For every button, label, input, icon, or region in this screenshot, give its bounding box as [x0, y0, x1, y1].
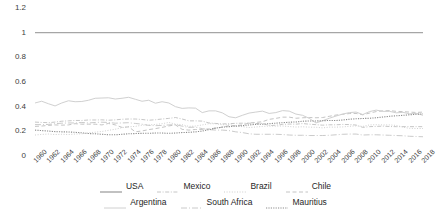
y-axis-tick-label: 0.6: [0, 78, 26, 86]
legend-swatch-icon: [181, 198, 203, 206]
legend-label: Mexico: [183, 181, 210, 191]
y-axis-tick-label: 0: [0, 152, 26, 160]
legend-row: ArgentinaSouth AfricaMauritius: [0, 194, 431, 210]
series-line-argentina: [35, 97, 423, 123]
legend-item-usa[interactable]: USA: [100, 181, 143, 191]
legend-swatch-icon: [100, 182, 122, 190]
plot-area: [35, 8, 423, 156]
legend-swatch-icon: [224, 182, 246, 190]
y-axis-tick-label: 1: [0, 29, 26, 37]
legend-label: Argentina: [130, 197, 166, 207]
y-axis-tick-label: 0.2: [0, 127, 26, 135]
legend-label: Brazil: [250, 181, 271, 191]
chart-canvas: [35, 8, 423, 156]
legend-label: Chile: [312, 181, 331, 191]
legend-swatch-icon: [104, 198, 126, 206]
legend-row: USAMexicoBrazilChile: [0, 178, 431, 194]
legend-item-argentina[interactable]: Argentina: [104, 197, 166, 207]
legend-item-south-africa[interactable]: South Africa: [181, 197, 253, 207]
legend-item-mexico[interactable]: Mexico: [157, 181, 210, 191]
chart-legend: USAMexicoBrazilChileArgentinaSouth Afric…: [0, 178, 431, 217]
legend-swatch-icon: [157, 182, 179, 190]
y-axis-tick-label: 1.2: [0, 4, 26, 12]
y-axis-tick-label: 0.4: [0, 103, 26, 111]
legend-swatch-icon: [286, 182, 308, 190]
legend-label: South Africa: [207, 197, 253, 207]
legend-label: USA: [126, 181, 143, 191]
y-axis-tick-label: 0.8: [0, 53, 26, 61]
legend-item-chile[interactable]: Chile: [286, 181, 331, 191]
legend-item-mauritius[interactable]: Mauritius: [266, 197, 326, 207]
legend-swatch-icon: [266, 198, 288, 206]
legend-item-brazil[interactable]: Brazil: [224, 181, 271, 191]
series-line-brazil: [35, 122, 423, 135]
legend-label: Mauritius: [292, 197, 326, 207]
